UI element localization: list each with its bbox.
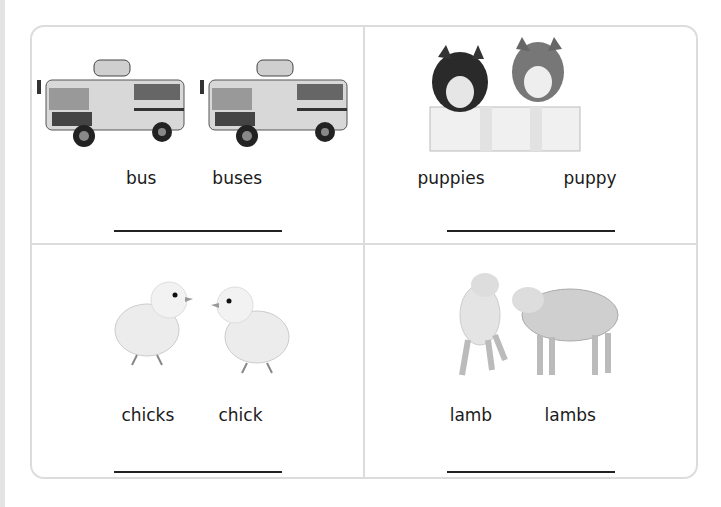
cell-lamb: lamb lambs xyxy=(365,245,696,479)
school-bus-image xyxy=(34,52,364,152)
puppies-image xyxy=(420,37,590,157)
answer-line[interactable] xyxy=(447,471,615,473)
word-option: puppy xyxy=(563,168,616,188)
word-option: buses xyxy=(212,168,262,188)
word-option: lambs xyxy=(545,405,596,425)
word-option: chicks xyxy=(121,405,174,425)
answer-line[interactable] xyxy=(114,230,282,232)
word-option: puppies xyxy=(417,168,484,188)
chicks-image xyxy=(107,275,307,375)
lambs-image xyxy=(440,265,630,385)
cell-bus: bus buses xyxy=(32,27,363,243)
page-edge xyxy=(0,0,5,507)
cell-puppy: puppies puppy xyxy=(365,27,696,243)
worksheet-card: bus buses puppies puppy xyxy=(30,25,698,479)
word-option: chick xyxy=(218,405,262,425)
answer-line[interactable] xyxy=(447,230,615,232)
cell-chick: chicks chick xyxy=(32,245,363,479)
word-option: lamb xyxy=(450,405,493,425)
answer-line[interactable] xyxy=(114,471,282,473)
word-option: bus xyxy=(126,168,156,188)
